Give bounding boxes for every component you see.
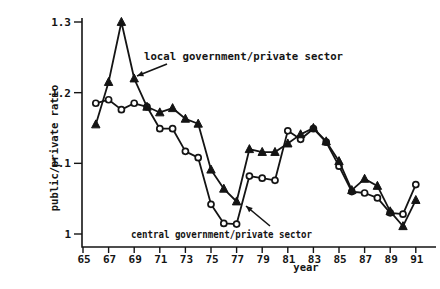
annotation-local-government-label: local government/private sector (144, 51, 343, 62)
circle-marker (157, 126, 163, 132)
y-axis-label: public/private ratio (48, 85, 60, 211)
x-tick-label: 75 (205, 253, 218, 266)
circle-marker (374, 195, 380, 201)
circle-marker (285, 128, 291, 134)
chart-canvas: 11.11.21.36567697173757779818385878991 p… (0, 0, 440, 289)
triangle-marker (245, 145, 253, 153)
x-axis-label: year (293, 261, 318, 273)
circle-marker (170, 126, 176, 132)
circle-marker (259, 175, 265, 181)
circle-marker (362, 190, 368, 196)
triangle-marker (92, 120, 100, 128)
x-tick-label: 89 (385, 253, 398, 266)
x-tick-label: 73 (180, 253, 193, 266)
x-tick-label: 71 (154, 253, 168, 266)
y-tick-label: 1.3 (51, 16, 71, 29)
circle-marker (208, 201, 214, 207)
x-tick-label: 69 (129, 253, 142, 266)
triangle-marker (360, 174, 368, 182)
local-annotation-arrow (137, 64, 167, 76)
y-tick-label: 1 (64, 228, 71, 241)
x-tick-label: 77 (231, 253, 244, 266)
circle-marker (93, 100, 99, 106)
central-annotation-arrow (246, 206, 270, 226)
circle-marker (234, 221, 240, 227)
triangle-marker (168, 104, 176, 112)
circle-marker (106, 97, 112, 103)
series-central-government (93, 97, 419, 227)
triangle-marker (104, 77, 112, 85)
triangle-marker (117, 17, 125, 25)
circle-marker (272, 177, 278, 183)
circle-marker (400, 211, 406, 217)
annotation-central-government-label: central government/private sector (131, 229, 312, 240)
circle-marker (221, 220, 227, 226)
x-tick-label: 87 (359, 253, 372, 266)
central-government-line (96, 100, 416, 224)
circle-marker (131, 100, 137, 106)
circle-marker (195, 155, 201, 161)
x-tick-label: 85 (333, 253, 346, 266)
x-tick-label: 91 (410, 253, 424, 266)
x-tick-label: 67 (103, 253, 116, 266)
x-tick-label: 79 (257, 253, 270, 266)
triangle-marker (207, 165, 215, 173)
triangle-marker (412, 195, 420, 203)
circle-marker (413, 182, 419, 188)
circle-marker (118, 107, 124, 113)
figure-scan: 11.11.21.36567697173757779818385878991 p… (0, 0, 440, 289)
circle-marker (246, 173, 252, 179)
circle-marker (182, 148, 188, 154)
series-local-government (92, 17, 420, 229)
x-tick-label: 65 (77, 253, 90, 266)
